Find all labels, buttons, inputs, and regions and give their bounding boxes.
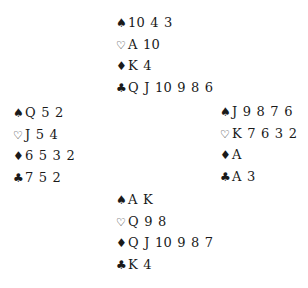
south-hearts-row: ♡Q 9 8 bbox=[116, 211, 213, 233]
south-spades-row: ♠A K bbox=[116, 189, 213, 211]
heart-icon: ♡ bbox=[13, 125, 25, 147]
south-diamonds: Q J 10 9 8 7 bbox=[128, 235, 213, 250]
spade-icon: ♠ bbox=[116, 190, 128, 212]
south-diamonds-row: ♦Q J 10 9 8 7 bbox=[116, 232, 213, 254]
north-clubs-row: ♣Q J 10 9 8 6 bbox=[116, 77, 213, 99]
club-icon: ♣ bbox=[116, 255, 128, 277]
north-diamonds: K 4 bbox=[128, 58, 152, 73]
club-icon: ♣ bbox=[220, 167, 232, 189]
west-clubs-row: ♣7 5 2 bbox=[13, 167, 75, 189]
west-clubs: 7 5 2 bbox=[25, 170, 61, 185]
diamond-icon: ♦ bbox=[13, 146, 25, 168]
diamond-icon: ♦ bbox=[116, 233, 128, 255]
heart-icon: ♡ bbox=[220, 124, 232, 146]
spade-icon: ♠ bbox=[13, 103, 25, 125]
heart-icon: ♡ bbox=[116, 35, 128, 57]
west-diamonds-row: ♦6 5 3 2 bbox=[13, 145, 75, 167]
north-clubs: Q J 10 9 8 6 bbox=[128, 80, 213, 95]
west-spades: Q 5 2 bbox=[25, 105, 63, 120]
spade-icon: ♠ bbox=[220, 102, 232, 124]
north-hearts-row: ♡A 10 bbox=[116, 34, 213, 56]
west-hand: ♠Q 5 2 ♡J 5 4 ♦6 5 3 2 ♣7 5 2 bbox=[13, 102, 75, 188]
west-hearts-row: ♡J 5 4 bbox=[13, 124, 75, 146]
diamond-icon: ♦ bbox=[220, 145, 232, 167]
south-hearts: Q 9 8 bbox=[128, 214, 166, 229]
east-diamonds-row: ♦A bbox=[220, 144, 297, 166]
east-diamonds: A bbox=[232, 147, 242, 162]
heart-icon: ♡ bbox=[116, 212, 128, 234]
north-hearts: A 10 bbox=[128, 37, 160, 52]
north-spades-row: ♠10 4 3 bbox=[116, 12, 213, 34]
north-spades: 10 4 3 bbox=[128, 15, 173, 30]
west-diamonds: 6 5 3 2 bbox=[25, 148, 75, 163]
diamond-icon: ♦ bbox=[116, 56, 128, 78]
south-clubs: K 4 bbox=[128, 257, 152, 272]
south-hand: ♠A K ♡Q 9 8 ♦Q J 10 9 8 7 ♣K 4 bbox=[116, 189, 213, 275]
north-diamonds-row: ♦K 4 bbox=[116, 55, 213, 77]
south-clubs-row: ♣K 4 bbox=[116, 254, 213, 276]
east-hearts: K 7 6 3 2 bbox=[232, 126, 297, 141]
spade-icon: ♠ bbox=[116, 13, 128, 35]
east-hand: ♠J 9 8 7 6 ♡K 7 6 3 2 ♦A ♣A 3 bbox=[220, 101, 297, 187]
east-hearts-row: ♡K 7 6 3 2 bbox=[220, 123, 297, 145]
west-hearts: J 5 4 bbox=[25, 127, 58, 142]
east-clubs-row: ♣A 3 bbox=[220, 166, 297, 188]
east-spades-row: ♠J 9 8 7 6 bbox=[220, 101, 297, 123]
club-icon: ♣ bbox=[116, 78, 128, 100]
east-spades: J 9 8 7 6 bbox=[232, 104, 293, 119]
north-hand: ♠10 4 3 ♡A 10 ♦K 4 ♣Q J 10 9 8 6 bbox=[116, 12, 213, 98]
club-icon: ♣ bbox=[13, 168, 25, 190]
east-clubs: A 3 bbox=[232, 169, 255, 184]
west-spades-row: ♠Q 5 2 bbox=[13, 102, 75, 124]
south-spades: A K bbox=[128, 192, 153, 207]
